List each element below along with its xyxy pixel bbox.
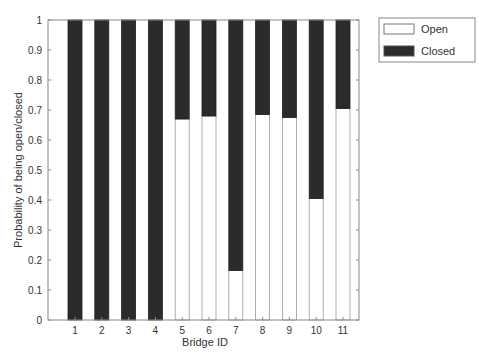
- y-axis-label: Probability of being open/closed: [12, 92, 24, 248]
- bar-closed-1: [68, 20, 82, 320]
- bar-open-5: [175, 119, 189, 320]
- y-tick-label: 0.7: [28, 105, 42, 116]
- y-tick-label: 1: [36, 15, 42, 26]
- bar-closed-8: [256, 20, 270, 115]
- y-tick-label: 0.4: [28, 195, 42, 206]
- bar-closed-4: [148, 20, 162, 320]
- x-tick-label: 5: [179, 325, 185, 336]
- x-tick-label: 9: [287, 325, 293, 336]
- bar-open-7: [229, 271, 243, 321]
- bar-closed-10: [309, 20, 323, 199]
- y-tick-label: 0.8: [28, 75, 42, 86]
- bar-closed-9: [282, 20, 296, 118]
- x-tick-label: 8: [260, 325, 266, 336]
- bar-open-9: [282, 118, 296, 321]
- x-tick-label: 10: [311, 325, 323, 336]
- legend-swatch-open: [384, 24, 414, 34]
- y-tick-label: 0.1: [28, 285, 42, 296]
- bar-closed-5: [175, 20, 189, 119]
- x-tick-label: 6: [206, 325, 212, 336]
- y-tick-label: 0.2: [28, 255, 42, 266]
- bar-closed-2: [95, 20, 109, 320]
- x-tick-label: 1: [72, 325, 78, 336]
- legend-swatch-closed: [384, 46, 414, 56]
- bars: [68, 20, 350, 320]
- bar-chart-svg: 00.10.20.30.40.50.60.70.80.91 1234567891…: [0, 0, 479, 361]
- bar-open-11: [336, 109, 350, 321]
- bar-closed-11: [336, 20, 350, 109]
- bar-open-8: [256, 115, 270, 321]
- legend-label-open: Open: [421, 23, 448, 35]
- x-tick-label: 3: [126, 325, 132, 336]
- y-tick-label: 0: [36, 315, 42, 326]
- bar-closed-6: [202, 20, 216, 116]
- x-tick-label: 2: [99, 325, 105, 336]
- x-tick-label: 4: [153, 325, 159, 336]
- bar-open-10: [309, 199, 323, 321]
- bar-closed-7: [229, 20, 243, 271]
- bar-open-6: [202, 116, 216, 320]
- bar-closed-3: [122, 20, 136, 320]
- legend: Open Closed: [379, 18, 475, 62]
- legend-label-closed: Closed: [421, 45, 455, 57]
- x-axis-label: Bridge ID: [182, 336, 228, 348]
- y-tick-label: 0.6: [28, 135, 42, 146]
- y-tick-label: 0.9: [28, 45, 42, 56]
- y-tick-label: 0.3: [28, 225, 42, 236]
- x-tick-label: 11: [338, 325, 349, 336]
- chart: 00.10.20.30.40.50.60.70.80.91 1234567891…: [0, 0, 479, 361]
- y-tick-label: 0.5: [28, 165, 42, 176]
- x-tick-label: 7: [233, 325, 239, 336]
